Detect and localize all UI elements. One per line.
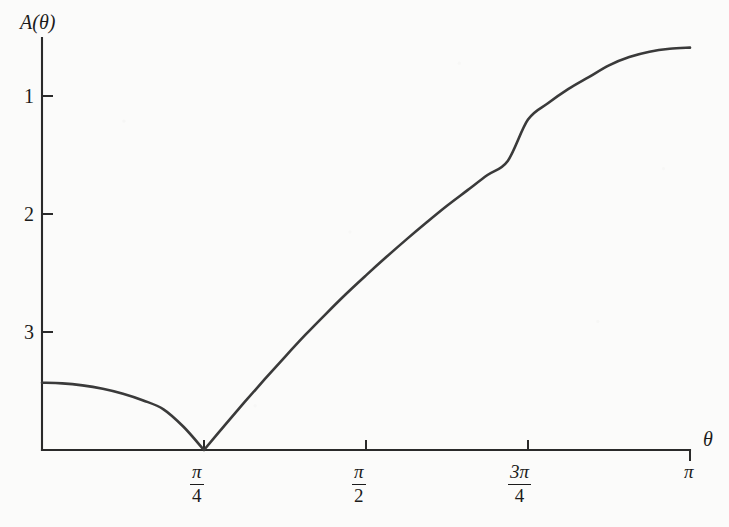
fraction-numerator: π [190,462,204,485]
fraction-denominator: 2 [352,485,366,507]
fraction-numerator: 3π [508,462,531,485]
x-tick-label-pi-over-4: π 4 [190,462,204,506]
data-curve-A-theta [42,48,690,450]
y-tick-label-1: 1 [14,86,34,106]
x-tick-label-pi-over-2: π 2 [352,462,366,506]
plot-canvas [0,0,729,527]
chart-figure: A(θ) θ 3 2 1 π 4 π 2 3π 4 π [0,0,729,527]
x-axis-title: θ [703,429,713,449]
fraction-denominator: 4 [190,485,204,507]
y-tick-label-3: 3 [14,322,34,342]
fraction-denominator: 4 [508,485,531,507]
fraction-numerator: π [352,462,366,485]
y-axis-title: A(θ) [20,12,55,32]
x-tick-label-3pi-over-4: 3π 4 [508,462,531,506]
y-tick-label-2: 2 [14,204,34,224]
x-tick-label-pi: π [684,462,694,481]
